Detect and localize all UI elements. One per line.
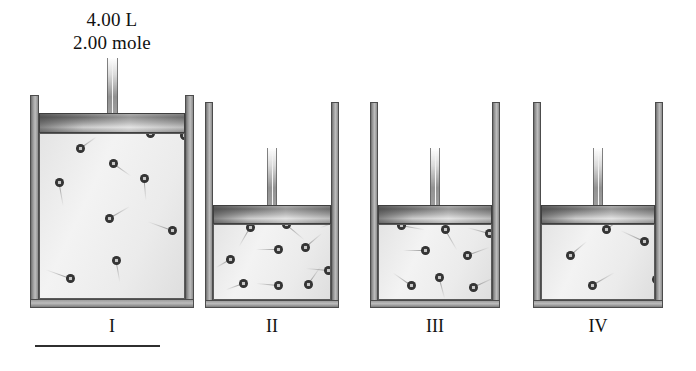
cylinder-i (30, 95, 194, 308)
piston-plate (541, 205, 655, 224)
container-label-i: I (30, 316, 194, 337)
gas-particle (112, 256, 121, 265)
cylinder-iv (533, 102, 663, 308)
gas-particle (485, 229, 492, 238)
container-label-ii: II (205, 316, 339, 337)
cylinder-wall-left (533, 102, 541, 308)
cylinder-wall-right (492, 102, 500, 308)
figure-underline-rule (35, 345, 160, 347)
gas-particle (407, 281, 416, 290)
piston-rod (107, 58, 118, 113)
gas-chamber (39, 133, 185, 299)
gas-particle (66, 274, 75, 283)
gas-particle (324, 266, 331, 275)
gas-particle (239, 279, 248, 288)
gas-sample-caption: 4.00 L2.00 mole (0, 8, 224, 54)
gas-particle (588, 281, 597, 290)
piston-plate (39, 113, 185, 133)
gas-particle (566, 251, 575, 260)
piston-rod (267, 148, 277, 205)
gas-chamber (378, 224, 492, 300)
volume-label: 4.00 L (0, 8, 224, 31)
cylinder-wall-right (331, 102, 339, 308)
cylinder-iii (370, 102, 500, 308)
container-label-iv: IV (533, 316, 663, 337)
gas-particle (76, 144, 85, 153)
piston-rod (593, 148, 603, 205)
piston-plate (378, 205, 492, 224)
gas-particle (55, 178, 64, 187)
gas-particle (105, 214, 114, 223)
cylinder-wall-right (185, 95, 194, 308)
gas-particle (435, 273, 444, 282)
particle-trail (320, 224, 331, 228)
gas-particle (274, 245, 283, 254)
gas-particle (168, 226, 177, 235)
gas-particle (140, 174, 149, 183)
cylinder-base (30, 299, 194, 308)
gas-particle (441, 225, 450, 234)
cylinder-wall-right (655, 102, 663, 308)
figure-canvas: 4.00 L2.00 moleIIIIIIIV (0, 0, 696, 371)
gas-particle (421, 246, 430, 255)
gas-particle (463, 251, 472, 260)
gas-chamber (541, 224, 655, 300)
gas-particle (246, 224, 255, 232)
gas-particle (146, 133, 155, 138)
piston-plate (213, 205, 331, 224)
cylinder-wall-left (30, 95, 39, 308)
container-label-iii: III (370, 316, 500, 337)
cylinder-base (370, 300, 500, 308)
cylinder-wall-left (370, 102, 378, 308)
gas-particle (274, 281, 283, 290)
gas-particle (640, 237, 649, 246)
gas-particle (469, 283, 478, 292)
gas-particle (602, 225, 611, 234)
gas-particle (226, 255, 235, 264)
cylinder-wall-left (205, 102, 213, 308)
cylinder-ii (205, 102, 339, 308)
moles-label: 2.00 mole (0, 31, 224, 54)
cylinder-base (205, 300, 339, 308)
gas-particle (397, 224, 406, 230)
gas-particle (304, 280, 313, 289)
cylinder-base (533, 300, 663, 308)
gas-particle (109, 159, 118, 168)
gas-particle (301, 243, 310, 252)
gas-chamber (213, 224, 331, 300)
piston-rod (430, 148, 440, 205)
